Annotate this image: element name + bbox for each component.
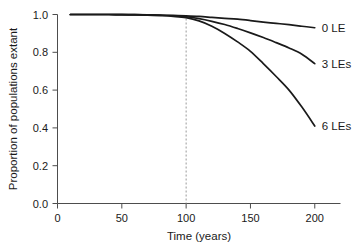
x-tick-label: 100 [177, 212, 195, 224]
x-axis-ticks: 050100150200 [54, 204, 324, 225]
series-label-1: 3 LEs [322, 58, 352, 70]
x-tick-label: 50 [116, 212, 128, 224]
series-label-2: 6 LEs [322, 120, 352, 132]
series-labels-group: 0 LE3 LEs6 LEs [322, 22, 352, 132]
series-line-0 [70, 14, 314, 27]
y-tick-label: 0.8 [33, 46, 48, 58]
y-axis-ticks: 0.00.20.40.60.81.0 [33, 9, 58, 210]
x-tick-label: 150 [241, 212, 259, 224]
data-series-group [70, 14, 314, 126]
y-tick-label: 1.0 [33, 9, 48, 21]
line-chart-plot: 0.00.20.40.60.81.0 050100150200 0 LE3 LE… [0, 0, 362, 247]
y-axis-title: Proportion of populations extant [7, 27, 19, 190]
chart-figure: 0.00.20.40.60.81.0 050100150200 0 LE3 LE… [0, 0, 362, 247]
series-line-1 [70, 14, 314, 63]
x-tick-label: 200 [306, 212, 324, 224]
series-label-0: 0 LE [322, 22, 346, 34]
y-tick-label: 0.6 [33, 84, 48, 96]
x-axis-title: Time (years) [167, 230, 231, 242]
series-line-2 [70, 14, 314, 126]
y-tick-label: 0.2 [33, 160, 48, 172]
y-tick-label: 0.0 [33, 198, 48, 210]
y-tick-label: 0.4 [33, 122, 48, 134]
x-tick-label: 0 [54, 212, 60, 224]
